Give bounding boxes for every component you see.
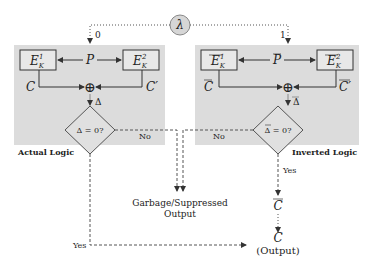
right-xor-icon: ⊕ [282, 79, 294, 95]
right-decision-text: Δ = 0? [265, 126, 292, 135]
inverted-logic-label: Inverted Logic [292, 147, 357, 157]
final-output-label: (Output) [256, 245, 299, 256]
left-enc2-label: EK2 [132, 53, 148, 70]
right-delta: Δ [293, 97, 300, 107]
left-plaintext: P [85, 53, 95, 67]
final-c-symbol: C [273, 231, 282, 245]
right-yes-label: Yes [282, 166, 296, 175]
garbage-label-line1: Garbage/Suppressed [132, 198, 228, 208]
branch-0-label: 0 [95, 30, 101, 40]
left-no-label: No [139, 132, 151, 141]
diagram-canvas: λ 0 1 EK1 EK2 P C C′ ⊕ Δ Δ = 0? No Actua… [0, 0, 373, 272]
right-c-prime: C′ [339, 80, 351, 94]
inverted-c-output: C [273, 199, 282, 213]
branch-1-label: 1 [280, 30, 286, 40]
garbage-label-line2: Output [164, 209, 196, 219]
left-yes-label: Yes [72, 241, 86, 250]
right-c: C [204, 80, 213, 94]
left-decision-text: Δ = 0? [77, 126, 104, 135]
left-delta: Δ [95, 97, 102, 107]
right-plaintext: P [272, 53, 282, 67]
actual-logic-label: Actual Logic [17, 147, 74, 157]
lambda-symbol: λ [175, 18, 184, 32]
left-c: C [26, 80, 35, 94]
left-enc1-label: EK1 [29, 53, 45, 70]
left-xor-icon: ⊕ [84, 79, 96, 95]
right-enc1-label: EK1 [210, 53, 226, 70]
right-enc2-label: EK2 [326, 53, 342, 70]
left-c-prime: C′ [146, 80, 158, 94]
right-no-label: No [213, 132, 225, 141]
